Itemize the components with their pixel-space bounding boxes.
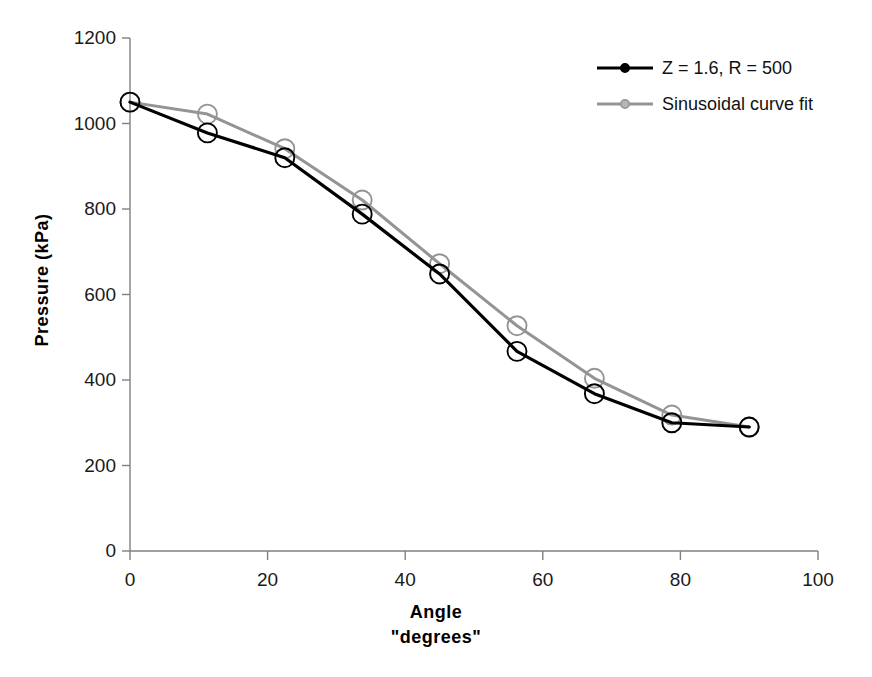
chart-legend: Z = 1.6, R = 500Sinusoidal curve fit bbox=[596, 50, 846, 122]
legend-item: Z = 1.6, R = 500 bbox=[596, 50, 846, 86]
x-tick-label: 0 bbox=[125, 569, 136, 591]
data-point-marker bbox=[662, 413, 681, 432]
legend-marker-icon bbox=[596, 60, 654, 76]
data-point-marker bbox=[198, 105, 217, 124]
legend-label: Sinusoidal curve fit bbox=[662, 94, 813, 115]
x-axis-title-line2: "degrees" bbox=[0, 625, 872, 650]
series-primary bbox=[121, 93, 759, 437]
x-axis-title-line1: Angle bbox=[410, 602, 463, 622]
data-point-marker bbox=[275, 148, 294, 167]
legend-item: Sinusoidal curve fit bbox=[596, 86, 846, 122]
x-tick-label: 80 bbox=[670, 569, 691, 591]
y-axis-title: Pressure (kPa) bbox=[32, 0, 72, 560]
legend-label: Z = 1.6, R = 500 bbox=[662, 58, 792, 79]
y-tick-label: 0 bbox=[105, 540, 116, 562]
data-point-marker bbox=[585, 384, 604, 403]
data-point-marker bbox=[430, 264, 449, 283]
y-tick-label: 200 bbox=[84, 455, 116, 477]
chart-figure: 020040060080010001200 020406080100 Angle… bbox=[0, 0, 872, 677]
x-tick-label: 20 bbox=[257, 569, 278, 591]
x-tick-label: 100 bbox=[802, 569, 834, 591]
x-axis-title: Angle "degrees" bbox=[0, 600, 872, 650]
x-tick-label: 60 bbox=[532, 569, 553, 591]
y-tick-label: 1200 bbox=[74, 27, 116, 49]
data-point-marker bbox=[353, 205, 372, 224]
y-tick-label: 1000 bbox=[74, 113, 116, 135]
y-tick-label: 800 bbox=[84, 198, 116, 220]
y-tick-label: 600 bbox=[84, 284, 116, 306]
y-tick-label: 400 bbox=[84, 369, 116, 391]
data-point-marker bbox=[508, 316, 527, 335]
data-point-marker bbox=[121, 93, 140, 112]
data-point-marker bbox=[198, 123, 217, 142]
legend-marker-icon bbox=[596, 96, 654, 112]
data-point-marker bbox=[740, 418, 759, 437]
x-tick-label: 40 bbox=[395, 569, 416, 591]
data-point-marker bbox=[508, 342, 527, 361]
